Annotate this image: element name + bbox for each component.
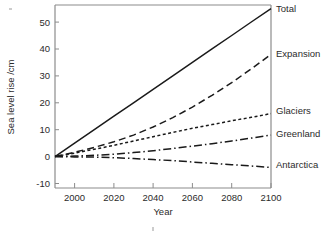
y-tick-label-0: 0 [45, 151, 50, 162]
axes-frame [55, 5, 271, 188]
x-tick-marks [75, 183, 271, 188]
chart-figure: 50 40 30 20 10 0 -10 2000 2020 2040 2060… [0, 0, 336, 232]
y-tick-label-40: 40 [39, 43, 50, 54]
scan-artifact-bottom [152, 227, 154, 231]
series-labels: Total Expansion Glaciers Greenland Antar… [276, 3, 320, 170]
series-line-expansion [55, 54, 271, 156]
x-tick-label-2100: 2100 [260, 192, 281, 203]
y-tick-labels: 50 40 30 20 10 0 -10 [36, 17, 50, 189]
y-tick-label-10: 10 [39, 124, 50, 135]
x-axis-title: Year [153, 206, 172, 217]
x-tick-label-2060: 2060 [182, 192, 203, 203]
x-tick-label-2020: 2020 [103, 192, 124, 203]
series-line-greenland [55, 135, 271, 157]
y-tick-label-minus10: -10 [36, 178, 50, 189]
x-tick-labels: 2000 2020 2040 2060 2080 2100 [64, 192, 282, 203]
y-tick-label-20: 20 [39, 97, 50, 108]
y-tick-label-50: 50 [39, 17, 50, 28]
series-label-antarctica: Antarctica [276, 159, 319, 170]
x-tick-label-2040: 2040 [143, 192, 164, 203]
y-tick-label-30: 30 [39, 70, 50, 81]
series-label-greenland: Greenland [276, 128, 320, 139]
series-line-antarctica [55, 157, 271, 168]
series-lines [55, 9, 271, 168]
sea-level-rise-line-chart: 50 40 30 20 10 0 -10 2000 2020 2040 2060… [0, 0, 336, 232]
series-label-expansion: Expansion [276, 48, 320, 59]
y-axis-title: Sea level rise /cm [5, 59, 16, 134]
x-tick-label-2000: 2000 [64, 192, 85, 203]
x-tick-label-2080: 2080 [221, 192, 242, 203]
series-label-total: Total [276, 3, 296, 14]
scan-artifact-top-left [9, 8, 12, 10]
series-label-glaciers: Glaciers [276, 105, 311, 116]
